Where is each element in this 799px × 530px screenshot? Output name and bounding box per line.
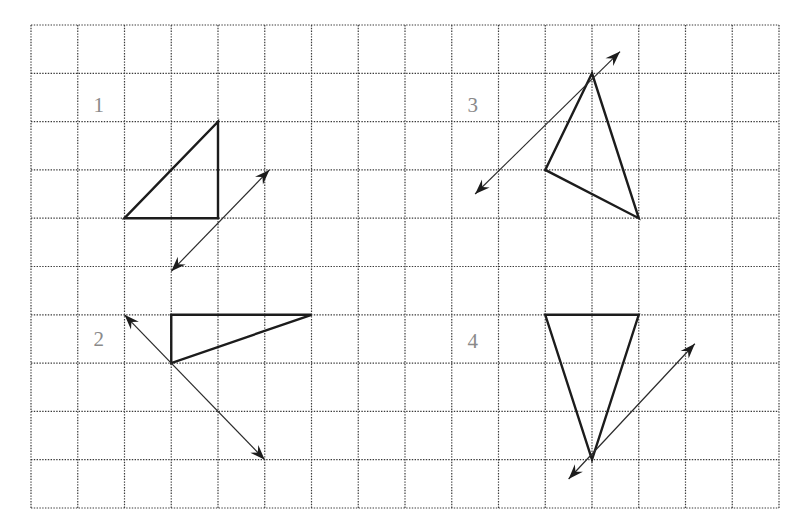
reflection-line bbox=[125, 315, 265, 460]
figure-2: 2 bbox=[94, 315, 312, 460]
figures: 1234 bbox=[94, 52, 695, 479]
figure-label: 2 bbox=[94, 327, 105, 351]
figure-label: 3 bbox=[468, 93, 479, 117]
diagram-canvas: 1234 bbox=[0, 0, 799, 530]
figure-3: 3 bbox=[468, 52, 639, 219]
figure-4: 4 bbox=[468, 315, 695, 479]
grid bbox=[31, 25, 779, 508]
figure-1: 1 bbox=[94, 93, 270, 272]
figure-label: 1 bbox=[94, 93, 105, 117]
reflection-line bbox=[171, 170, 269, 271]
figure-label: 4 bbox=[468, 329, 479, 353]
triangle-shape bbox=[171, 315, 311, 363]
